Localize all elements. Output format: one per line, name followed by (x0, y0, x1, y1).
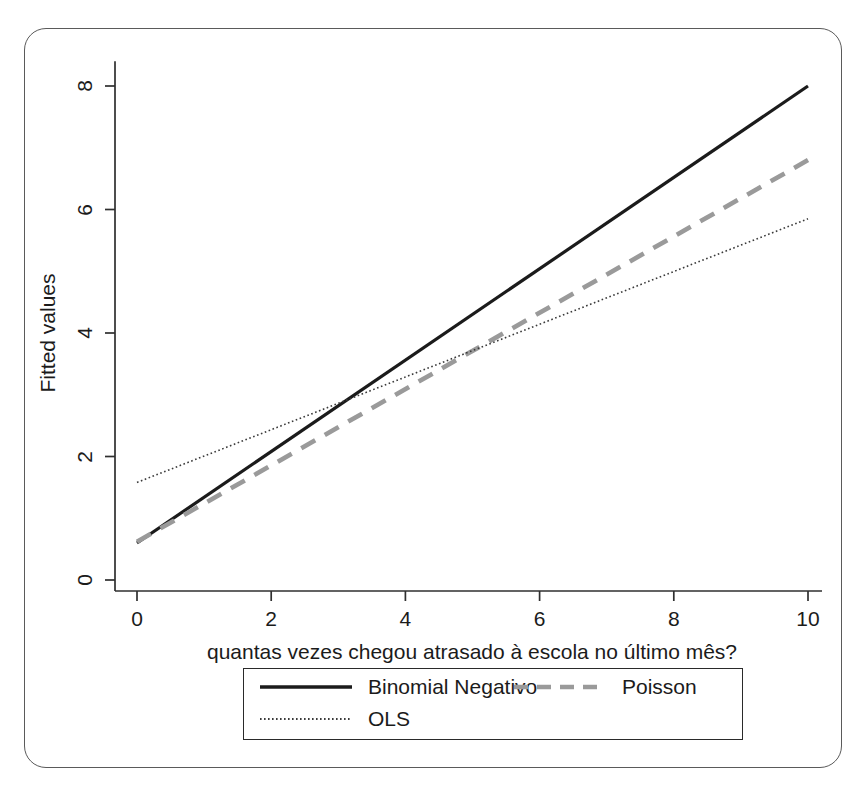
legend-swatch-dashed-line (512, 678, 608, 696)
y-tick-label-0: 0 (73, 574, 97, 586)
y-tick-label-6: 6 (73, 204, 97, 216)
legend-item-poisson: Poisson (512, 675, 697, 699)
legend-item-binomial-negativo: Binomial Negativo (258, 675, 537, 699)
figure-root: 0246810 02468 quantas vezes chegou atras… (0, 0, 867, 798)
x-tick-label-2: 2 (265, 607, 277, 631)
legend-swatch-solid-line (258, 678, 354, 696)
x-tick-label-4: 4 (400, 607, 412, 631)
series-line-poisson (137, 160, 808, 542)
y-tick-label-4: 4 (73, 327, 97, 339)
legend-swatch-dotted-line (258, 710, 354, 728)
x-axis-title: quantas vezes chegou atrasado à escola n… (207, 640, 737, 664)
y-axis-title: Fitted values (36, 273, 60, 392)
x-tick-label-10: 10 (796, 607, 819, 631)
x-tick-label-8: 8 (668, 607, 680, 631)
legend-label-poisson: Poisson (622, 675, 697, 699)
x-tick-label-0: 0 (131, 607, 143, 631)
legend-label-ols: OLS (368, 707, 410, 731)
y-tick-label-8: 8 (73, 80, 97, 92)
x-tick-label-6: 6 (534, 607, 546, 631)
y-tick-label-2: 2 (73, 451, 97, 463)
axes-layer (105, 61, 822, 601)
series-layer (137, 86, 808, 543)
series-line-binomial-negativo (137, 86, 808, 543)
legend-item-ols: OLS (258, 707, 410, 731)
chart-legend: Binomial Negativo Poisson OLS (243, 668, 743, 740)
